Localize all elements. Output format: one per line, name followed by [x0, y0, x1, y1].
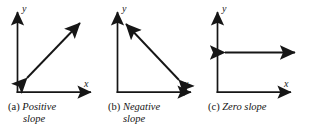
- panel-caption: (b) Negative slope: [108, 101, 160, 124]
- caption-tag: (c): [208, 101, 220, 112]
- slope-illustration-figure: y x (a) Positive slope y x (b): [0, 0, 314, 131]
- panel-negative-slope: y x (b) Negative slope: [100, 0, 200, 131]
- x-axis-label: x: [284, 79, 288, 89]
- positive-slope-arrow: [27, 23, 80, 78]
- x-axis-label: x: [184, 79, 188, 89]
- y-axis-label: y: [222, 4, 226, 14]
- y-axis-label: y: [22, 4, 26, 14]
- panel-positive-slope: y x (a) Positive slope: [0, 0, 100, 131]
- caption-tag: (b): [108, 101, 120, 112]
- y-axis-label: y: [122, 4, 126, 14]
- caption-tag: (a): [8, 101, 20, 112]
- panel-caption: (a) Positive slope: [8, 101, 56, 124]
- caption-line-1: Positive: [22, 101, 56, 112]
- panel-zero-slope: y x (c) Zero slope: [200, 0, 314, 131]
- caption-line-1: Zero slope: [222, 101, 266, 112]
- caption-line-2: slope: [108, 113, 160, 125]
- caption-line-2: slope: [8, 113, 56, 125]
- x-axis-label: x: [84, 79, 88, 89]
- panel-c-graphic: [200, 0, 314, 100]
- panel-caption: (c) Zero slope: [208, 101, 267, 113]
- negative-slope-arrow: [126, 24, 179, 80]
- caption-line-1: Negative: [123, 101, 160, 112]
